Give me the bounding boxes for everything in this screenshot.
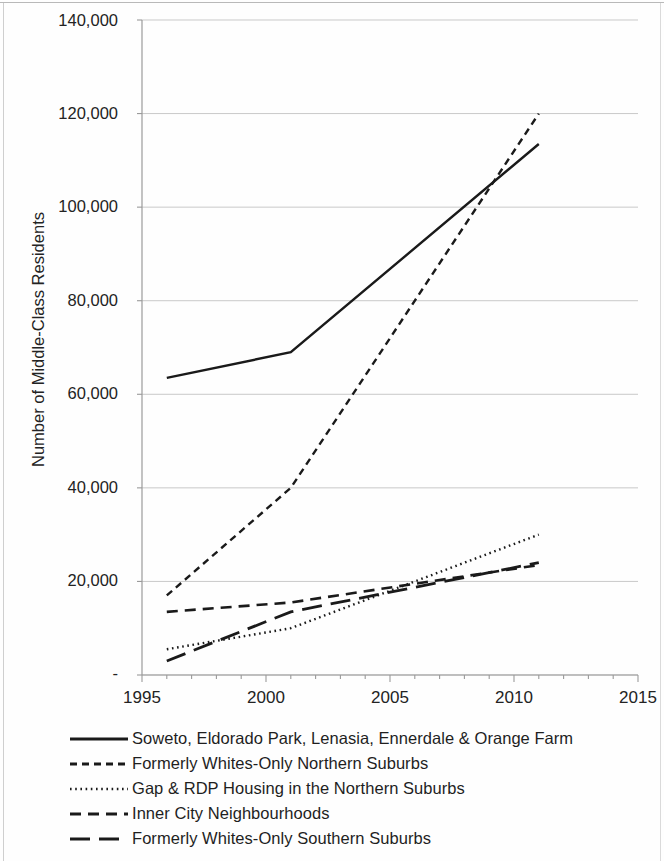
- legend-item: Gap & RDP Housing in the Northern Suburb…: [70, 776, 650, 801]
- x-tick-label: 2005: [330, 688, 450, 708]
- gridlines: [142, 20, 638, 675]
- chart-figure: 140,000 120,000 100,000 80,000 60,000 40…: [0, 0, 664, 861]
- legend-item: Formerly Whites-Only Northern Suburbs: [70, 751, 650, 776]
- tick-marks: [137, 20, 638, 682]
- axis-lines: [142, 20, 638, 675]
- series-lines: [167, 114, 539, 661]
- legend-swatch-solid: [70, 732, 128, 746]
- x-tick-label: 1995: [82, 688, 202, 708]
- legend-item-label: Formerly Whites-Only Southern Suburbs: [132, 829, 431, 848]
- legend-item-label: Gap & RDP Housing in the Northern Suburb…: [132, 779, 465, 798]
- series-line-3: [167, 565, 539, 612]
- y-axis-title: Number of Middle-Class Residents: [29, 110, 48, 570]
- legend-item: Soweto, Eldorado Park, Lenasia, Ennerdal…: [70, 726, 650, 751]
- legend-item: Formerly Whites-Only Southern Suburbs: [70, 826, 650, 851]
- legend-swatch-dashed-long: [70, 832, 128, 846]
- legend-item-label: Formerly Whites-Only Northern Suburbs: [132, 754, 428, 773]
- x-tick-label: 2010: [454, 688, 574, 708]
- legend-swatch-dotted: [70, 782, 128, 796]
- plot-svg: [142, 20, 638, 675]
- legend-item-label: Inner City Neighbourhoods: [132, 804, 330, 823]
- chart-legend: Soweto, Eldorado Park, Lenasia, Ennerdal…: [70, 726, 650, 851]
- series-line-1: [167, 114, 539, 596]
- legend-item-label: Soweto, Eldorado Park, Lenasia, Ennerdal…: [132, 729, 573, 748]
- legend-item: Inner City Neighbourhoods: [70, 801, 650, 826]
- legend-swatch-dashed-medium: [70, 807, 128, 821]
- x-tick-label: 2015: [578, 688, 664, 708]
- x-tick-label: 2000: [206, 688, 326, 708]
- y-axis-title-container: Number of Middle-Class Residents: [0, 0, 80, 700]
- legend-swatch-dashed-short: [70, 757, 128, 771]
- series-line-4: [167, 563, 539, 661]
- series-line-0: [167, 144, 539, 378]
- plot-area: [142, 20, 638, 675]
